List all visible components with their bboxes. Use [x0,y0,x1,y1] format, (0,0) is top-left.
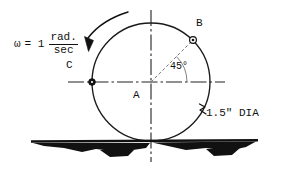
ground-hatching-blob-left [100,150,134,157]
omega-equals-value: = 1 [25,39,45,50]
point-b-center-dot [192,39,195,42]
label-point-b: B [196,18,203,29]
point-c-center-dot [91,81,93,83]
label-point-c: C [66,60,73,71]
fraction-denominator: sec [54,45,74,57]
ground-line [31,140,258,141]
ground-hatching-right [152,141,256,151]
diagram-canvas: ω = 1 rad. sec A B C 45° 1.5" DIA [0,0,286,169]
omega-symbol: ω [14,39,21,50]
label-angle-45: 45° [170,62,188,72]
label-center-a: A [133,90,140,101]
rotation-arrow-arc [88,12,128,38]
fraction-numerator: rad. [49,32,77,45]
label-diameter: 1.5" DIA [206,108,259,119]
rotation-arrow-head [85,37,94,52]
ground-hatching-blob-right [206,148,240,156]
rad-per-sec-fraction: rad. sec [49,32,77,56]
